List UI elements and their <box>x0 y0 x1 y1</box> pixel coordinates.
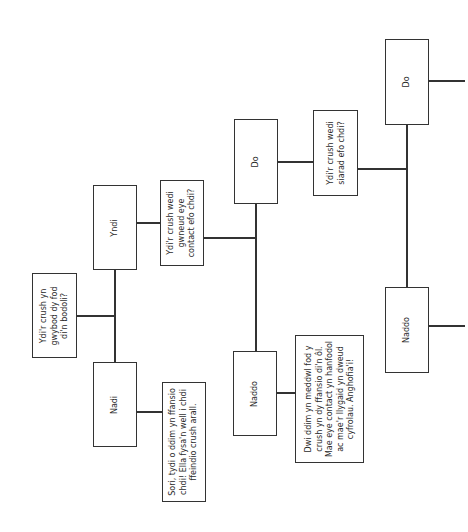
result-text: Dwi ddim yn meddwl fod y crush yn dy ffa… <box>303 339 356 459</box>
answer-text: Naddo <box>250 359 261 429</box>
connector-q1-spine <box>114 270 116 362</box>
connector-do-right-exit <box>429 80 465 82</box>
connector-q3-spine <box>406 125 408 287</box>
answer-box-nadi: Nadi <box>93 362 137 447</box>
result-box-no-eye-contact: Dwi ddim yn meddwl fod y crush yn dy ffa… <box>295 335 364 463</box>
question-box-talked: Ydi'r crush wedi siarad efo chdi? <box>313 110 358 196</box>
connector-naddo-result <box>277 392 295 394</box>
answer-box-do-talked: Do <box>385 39 429 125</box>
answer-box-yndi: Yndi <box>93 185 137 270</box>
question-text: Ydi'r crush wedi siarad efo chdi? <box>325 116 346 190</box>
connector-naddo-right-exit <box>429 325 465 327</box>
result-text: Sori, tydi o ddim yn ffansio chdi! Ella … <box>168 386 200 498</box>
question-box-knows-you-exist: Ydi'r crush yn gwybod dy fod di'n bodoli… <box>32 273 77 358</box>
connector-q3-trunk <box>358 168 407 170</box>
question-text: Ydi'r crush wedi gwneud eye contact efo … <box>166 185 198 261</box>
connector-q2-trunk <box>204 237 256 239</box>
connector-do-q3 <box>278 161 313 163</box>
connector-q2-spine <box>255 204 257 351</box>
answer-text: Do <box>402 47 413 117</box>
question-text: Ydi'r crush yn gwybod dy fod di'n bodoli… <box>39 279 71 353</box>
answer-box-naddo-eye-contact: Naddo <box>233 351 277 436</box>
answer-text: Naddo <box>402 295 413 365</box>
connector-yndi-q2 <box>137 222 160 224</box>
answer-box-do-eye-contact: Do <box>234 119 278 204</box>
answer-text: Nadi <box>110 370 121 440</box>
connector-q1-trunk <box>77 315 115 317</box>
flowchart: Ydi'r crush yn gwybod dy fod di'n bodoli… <box>0 0 468 532</box>
question-box-eye-contact: Ydi'r crush wedi gwneud eye contact efo … <box>160 180 204 266</box>
answer-text: Yndi <box>110 193 121 263</box>
result-box-not-interested: Sori, tydi o ddim yn ffansio chdi! Ella … <box>162 382 206 502</box>
answer-text: Do <box>251 127 262 197</box>
connector-nadi-result <box>137 411 162 413</box>
answer-box-naddo-talked: Naddo <box>385 287 429 373</box>
